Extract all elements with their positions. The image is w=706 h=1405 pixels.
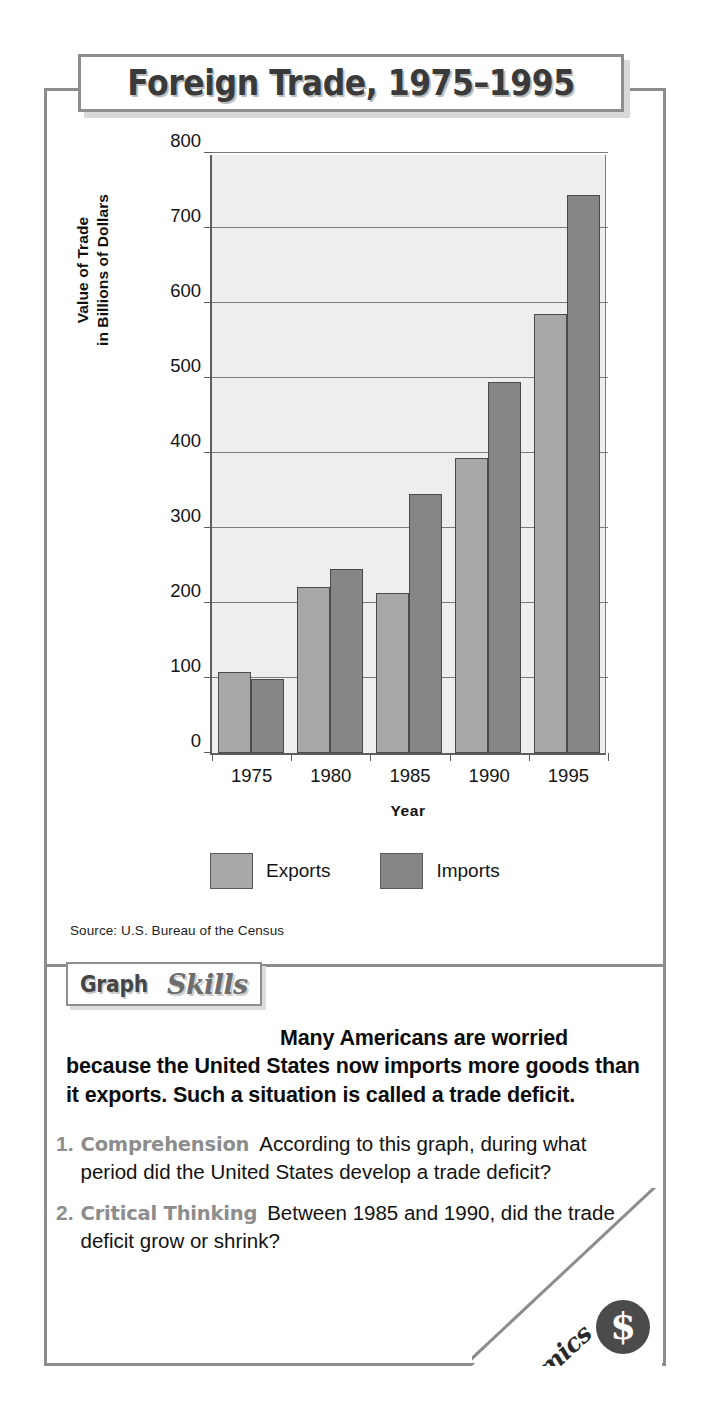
gridline [212,227,608,228]
x-axis-tick-mark [608,753,609,761]
y-axis-tick-label: 400 [170,430,201,452]
y-axis-tick-label: 500 [170,355,201,377]
y-axis-tick-label: 800 [170,130,201,152]
bar-exports-1995 [534,314,567,753]
x-axis-tick-label: 1975 [231,765,272,787]
question-number: 2. [56,1199,74,1254]
bar-exports-1990 [455,458,488,754]
y-axis-tick-mark [204,377,212,378]
y-axis-tick-mark [204,752,212,753]
economics-corner-badge: Economics $ [472,1188,662,1366]
question-number: 1. [56,1130,74,1185]
question-body: ComprehensionAccording to this graph, du… [81,1130,626,1185]
y-axis-tick-mark [204,152,212,153]
question-category-label: Comprehension [81,1133,250,1156]
legend-swatch-exports [210,853,253,889]
y-axis-tick-label: 200 [170,580,201,602]
graph-skills-badge: Graph Skills [66,962,262,1006]
y-axis-title-line1: Value of Trade [73,217,93,324]
x-axis-tick-mark [212,753,213,761]
y-axis-tick-mark [204,677,212,678]
x-axis-tick-label: 1995 [548,765,589,787]
x-axis-tick-label: 1985 [389,765,430,787]
bar-imports-1985 [409,494,442,753]
bar-exports-1985 [376,593,409,754]
page-title: Foreign Trade, 1975–1995 [108,57,594,109]
x-axis-tick-mark [370,753,371,761]
x-axis-tick-label: 1990 [469,765,510,787]
legend-label-exports: Exports [266,860,330,882]
plot-area: 0100200300400500600700800 19751980198519… [210,155,606,755]
textbook-graph-page: Foreign Trade, 1975–1995 Value of Trade … [0,0,706,1405]
plot-right-edge [605,155,606,755]
y-axis-tick-mark [204,602,212,603]
intro-paragraph: Many Americans are worried because the U… [66,1024,644,1110]
legend-swatch-imports [380,853,423,889]
chart-container: Value of Trade in Billions of Dollars 01… [44,130,666,930]
question-category-label: Critical Thinking [81,1202,258,1225]
source-note: Source: U.S. Bureau of the Census [70,923,284,938]
y-axis-tick-mark [204,527,212,528]
bar-imports-1975 [251,679,284,753]
bar-exports-1980 [297,587,330,753]
graph-skills-word-graph: Graph [80,971,148,997]
gridline [212,302,608,303]
graph-skills-word-skills: Skills [167,969,248,1000]
dollar-sign-icon: $ [596,1300,650,1354]
dollar-sign-glyph: $ [610,1308,636,1345]
y-axis-tick-label: 100 [170,655,201,677]
y-axis-tick-label: 700 [170,205,201,227]
bar-imports-1995 [567,195,600,753]
y-axis-tick-mark [204,227,212,228]
bar-imports-1980 [330,569,363,753]
y-axis-title-line2: in Billions of Dollars [93,194,113,346]
chart-title-banner: Foreign Trade, 1975–1995 [78,54,624,112]
bar-exports-1975 [218,672,251,753]
y-axis-tick-label: 0 [191,730,201,752]
x-axis-tick-mark [529,753,530,761]
y-axis-title: Value of Trade in Billions of Dollars [70,110,116,430]
y-axis-tick-mark [204,302,212,303]
x-axis-tick-mark [450,753,451,761]
y-axis-tick-mark [204,452,212,453]
legend-item-imports: Imports [380,853,499,889]
x-axis-tick-label: 1980 [310,765,351,787]
question-item: 1.ComprehensionAccording to this graph, … [56,1130,626,1185]
y-axis-tick-label: 600 [170,280,201,302]
chart-legend: ExportsImports [210,848,630,894]
gridline [212,152,608,153]
y-axis-tick-label: 300 [170,505,201,527]
bar-imports-1990 [488,382,521,753]
legend-item-exports: Exports [210,853,330,889]
x-axis-title: Year [210,802,606,820]
intro-lead: Many Americans [280,1026,448,1050]
x-axis-tick-mark [291,753,292,761]
legend-label-imports: Imports [436,860,499,882]
